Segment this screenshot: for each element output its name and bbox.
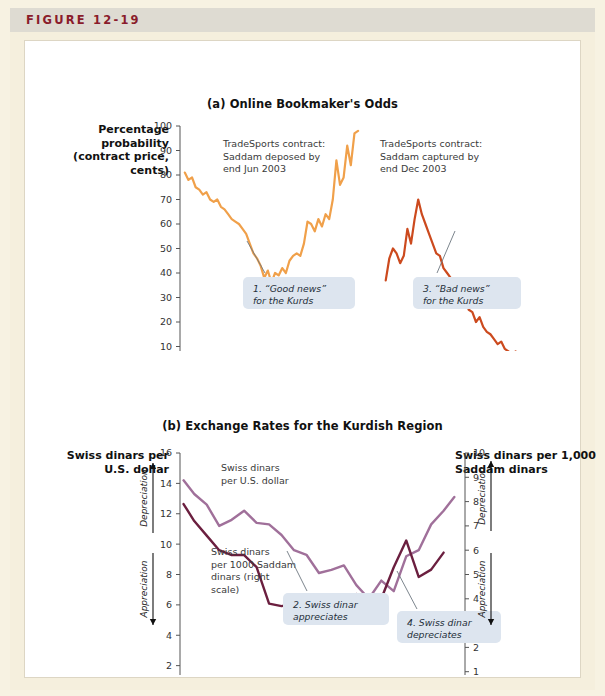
svg-text:14: 14 — [160, 478, 172, 489]
svg-text:70: 70 — [160, 194, 172, 205]
svg-text:scale): scale) — [211, 584, 239, 595]
left-appreciation-arrow: Appreciation — [139, 553, 156, 625]
svg-text:end Dec 2003: end Dec 2003 — [380, 163, 447, 174]
svg-text:Depreciation: Depreciation — [477, 467, 487, 525]
svg-text:40: 40 — [160, 267, 172, 278]
svg-text:TradeSports contract:: TradeSports contract: — [379, 138, 482, 149]
svg-text:1: 1 — [473, 666, 479, 675]
svg-text:end Jun 2003: end Jun 2003 — [223, 163, 286, 174]
figure-number-label: FIGURE 12-19 — [26, 13, 141, 27]
left-depreciation-arrow: Depreciation — [139, 463, 156, 533]
panel-b-chart: 0246810121416012345678910Sep 2002Dec 200… — [25, 403, 582, 675]
svg-text:30: 30 — [160, 292, 172, 303]
svg-text:depreciates: depreciates — [407, 629, 462, 640]
svg-text:100: 100 — [154, 120, 172, 131]
svg-text:8: 8 — [166, 569, 172, 580]
svg-text:2: 2 — [166, 660, 172, 671]
figure-card: (a) Online Bookmaker's Odds Percentage p… — [24, 40, 581, 678]
callout-appreciates: 2. Swiss dinarappreciates — [283, 593, 389, 625]
svg-text:Saddam deposed by: Saddam deposed by — [223, 151, 321, 162]
svg-text:TradeSports contract:: TradeSports contract: — [222, 138, 325, 149]
callout-good-news: 1. “Good news”for the Kurds — [243, 277, 355, 309]
svg-text:2: 2 — [473, 642, 479, 653]
svg-text:4. Swiss dinar: 4. Swiss dinar — [407, 617, 473, 628]
svg-text:4: 4 — [166, 630, 172, 641]
svg-text:60: 60 — [160, 218, 172, 229]
svg-text:80: 80 — [160, 169, 172, 180]
svg-text:Appreciation: Appreciation — [477, 560, 487, 618]
figure-header-band: FIGURE 12-19 — [10, 8, 595, 32]
callout-bad-news: 3. “Bad news”for the Kurds — [413, 277, 521, 309]
svg-text:3. “Bad news”: 3. “Bad news” — [423, 283, 490, 294]
svg-text:20: 20 — [160, 316, 172, 327]
right-depreciation-arrow: Depreciation — [477, 461, 494, 531]
svg-text:dinars (right: dinars (right — [211, 571, 270, 582]
svg-text:2. Swiss dinar: 2. Swiss dinar — [293, 599, 359, 610]
svg-text:per 1000 Saddam: per 1000 Saddam — [211, 559, 296, 570]
svg-text:Depreciation: Depreciation — [139, 469, 149, 527]
svg-text:12: 12 — [160, 508, 172, 519]
svg-text:Appreciation: Appreciation — [139, 560, 149, 618]
svg-text:16: 16 — [160, 447, 172, 458]
figure-root: FIGURE 12-19 (a) Online Bookmaker's Odds… — [0, 0, 605, 696]
panel-a-chart: 0102030405060708090100Sep 2002Dec 2002Ma… — [25, 81, 582, 351]
svg-text:Swiss dinars: Swiss dinars — [221, 462, 280, 473]
svg-text:for the Kurds: for the Kurds — [423, 295, 483, 306]
svg-text:Swiss dinars: Swiss dinars — [211, 546, 270, 557]
svg-text:Saddam captured by: Saddam captured by — [380, 151, 479, 162]
svg-text:10: 10 — [473, 447, 485, 458]
svg-text:90: 90 — [160, 145, 172, 156]
svg-text:6: 6 — [166, 599, 172, 610]
svg-text:10: 10 — [160, 341, 172, 351]
svg-text:10: 10 — [160, 539, 172, 550]
svg-text:6: 6 — [473, 545, 479, 556]
svg-text:50: 50 — [160, 243, 172, 254]
svg-text:per U.S. dollar: per U.S. dollar — [221, 475, 289, 486]
svg-text:1. “Good news”: 1. “Good news” — [253, 283, 326, 294]
svg-text:appreciates: appreciates — [293, 611, 348, 622]
svg-text:for the Kurds: for the Kurds — [253, 295, 313, 306]
